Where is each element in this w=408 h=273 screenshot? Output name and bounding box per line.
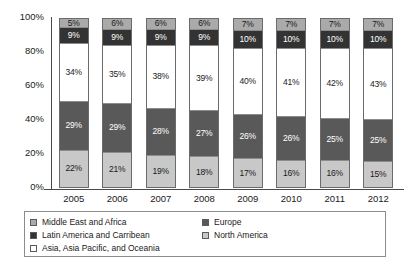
bar-segment-label: 34% [66, 68, 82, 77]
bar-segment[interactable]: 5% [60, 19, 88, 27]
bar-segment[interactable]: 26% [277, 116, 305, 160]
bar-group[interactable]: 6%9%39%27%18% [189, 18, 219, 188]
legend-label: Middle East and Africa [42, 218, 127, 227]
bar-segment-label: 17% [240, 169, 256, 178]
bar-segment-label: 25% [370, 136, 386, 145]
bar-segment-label: 7% [372, 20, 384, 29]
bar-segment-label: 22% [66, 164, 82, 173]
x-axis-label: 2011 [313, 193, 357, 204]
bar-segment-label: 10% [370, 35, 386, 44]
bar-segment-label: 9% [68, 31, 80, 40]
bar-segment[interactable]: 7% [234, 19, 262, 30]
bar-segment[interactable]: 26% [234, 114, 262, 158]
bar-segment-label: 10% [283, 35, 299, 44]
bar-segment[interactable]: 19% [147, 155, 175, 187]
legend-swatch-icon [30, 245, 37, 252]
bar-group[interactable]: 6%9%38%28%19% [146, 18, 176, 188]
bar-segment[interactable]: 10% [234, 30, 262, 47]
bar-segment-label: 6% [198, 19, 210, 28]
y-axis-tick: 100% [20, 12, 44, 22]
bar-segment[interactable]: 10% [277, 30, 305, 47]
legend-label: Asia, Asia Pacific, and Oceania [42, 244, 160, 253]
bar-segment[interactable]: 29% [103, 103, 131, 152]
bar-segment-label: 25% [327, 135, 343, 144]
bar-group[interactable]: 7%10%40%26%17% [233, 18, 263, 188]
bar-group[interactable]: 7%10%41%26%16% [276, 18, 306, 188]
bar-segment-label: 18% [196, 168, 212, 177]
y-axis-tick: 0% [30, 182, 44, 192]
y-axis-tick: 20% [25, 148, 44, 158]
legend-item[interactable]: North America [202, 229, 362, 242]
bar-segment-label: 5% [68, 19, 80, 27]
bar-segment-label: 6% [111, 19, 123, 28]
bar-group[interactable]: 7%10%43%25%15% [363, 18, 393, 188]
legend-column-left: Middle East and AfricaLatin America and … [30, 216, 202, 255]
bar-segment[interactable]: 38% [147, 45, 175, 108]
bar-segment[interactable]: 29% [60, 101, 88, 150]
bar-segment[interactable]: 9% [60, 27, 88, 43]
bar-segment[interactable]: 35% [103, 45, 131, 103]
bar-segment[interactable]: 6% [103, 19, 131, 29]
bar-segment-label: 28% [153, 127, 169, 136]
bar-segment-label: 29% [66, 121, 82, 130]
bar-segment-label: 10% [327, 35, 343, 44]
legend-column-right: EuropeNorth America [202, 216, 362, 255]
bar-segment[interactable]: 6% [190, 19, 218, 29]
bar-segment-label: 9% [111, 33, 123, 42]
bar-segment[interactable]: 9% [103, 29, 131, 45]
bar-segment[interactable]: 17% [234, 158, 262, 187]
bar-segment-label: 7% [329, 20, 341, 29]
bar-group[interactable]: 6%9%35%29%21% [102, 18, 132, 188]
bar-segment[interactable]: 28% [147, 108, 175, 155]
bar-segment[interactable]: 7% [277, 19, 305, 30]
bar-segment[interactable]: 27% [190, 110, 218, 156]
bar-segment[interactable]: 9% [147, 29, 175, 45]
bar-segment-label: 6% [155, 19, 167, 28]
bar-segment-label: 26% [240, 132, 256, 141]
legend-swatch-icon [202, 219, 209, 226]
bar-segment[interactable]: 25% [364, 119, 392, 161]
legend-label: Latin America and Carribean [42, 231, 150, 240]
bar-segment[interactable]: 10% [364, 30, 392, 47]
bar-segment[interactable]: 34% [60, 43, 88, 100]
bar-segment[interactable]: 9% [190, 29, 218, 45]
bar-segment[interactable]: 22% [60, 150, 88, 187]
legend-label: North America [214, 231, 268, 240]
bar-segment-label: 15% [370, 170, 386, 179]
bar-segment-label: 43% [370, 80, 386, 89]
bar-segment-label: 10% [240, 35, 256, 44]
bar-segment[interactable]: 43% [364, 48, 392, 120]
bar-segment[interactable]: 18% [190, 156, 218, 187]
plot-area: 5%9%34%29%22%6%9%35%29%21%6%9%38%28%19%6… [52, 18, 400, 188]
bar-segment[interactable]: 6% [147, 19, 175, 29]
bar-segment[interactable]: 16% [277, 160, 305, 187]
chart-legend: Middle East and AfricaLatin America and … [24, 211, 386, 257]
bar-segment[interactable]: 25% [321, 118, 349, 160]
legend-item[interactable]: Latin America and Carribean [30, 229, 202, 242]
y-axis-tick: 40% [25, 114, 44, 124]
bar-segment[interactable]: 15% [364, 161, 392, 187]
x-axis-label: 2009 [226, 193, 270, 204]
bar-segment[interactable]: 40% [234, 48, 262, 115]
bar-group[interactable]: 7%10%42%25%16% [320, 18, 350, 188]
bar-segment[interactable]: 21% [103, 152, 131, 187]
bar-group[interactable]: 5%9%34%29%22% [59, 18, 89, 188]
legend-item[interactable]: Asia, Asia Pacific, and Oceania [30, 242, 202, 255]
bar-segment[interactable]: 7% [321, 19, 349, 30]
bar-segment[interactable]: 39% [190, 45, 218, 111]
y-axis-tick: 60% [25, 80, 44, 90]
bar-segment[interactable]: 7% [364, 19, 392, 30]
x-axis-label: 2008 [182, 193, 226, 204]
legend-swatch-icon [202, 232, 209, 239]
bar-segment-label: 21% [109, 165, 125, 174]
x-axis-label: 2005 [52, 193, 96, 204]
bar-segment-label: 9% [155, 33, 167, 42]
legend-item[interactable]: Europe [202, 216, 362, 229]
bar-segment[interactable]: 42% [321, 48, 349, 118]
bar-segment-label: 39% [196, 74, 212, 83]
bar-segment[interactable]: 10% [321, 30, 349, 47]
bar-segment[interactable]: 41% [277, 48, 305, 116]
legend-swatch-icon [30, 232, 37, 239]
legend-item[interactable]: Middle East and Africa [30, 216, 202, 229]
bar-segment[interactable]: 16% [321, 160, 349, 187]
